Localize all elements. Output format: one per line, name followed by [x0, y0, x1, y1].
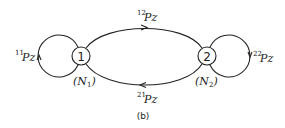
state-transition-diagram: 1 2 11 Pz 12 Pz 21 Pz 22 Pz (N1) (N2) (b…: [0, 0, 285, 128]
node-2: 2: [198, 47, 216, 65]
edge-label-11: 11 Pz: [15, 49, 35, 64]
node-1: 1: [72, 47, 90, 65]
svg-text:Pz: Pz: [143, 93, 157, 106]
svg-text:Pz: Pz: [143, 11, 157, 24]
svg-text:Pz: Pz: [21, 51, 35, 64]
node-1-label: 1: [77, 50, 85, 64]
node-2-name: (N2): [195, 75, 218, 89]
edge-label-21: 21 Pz: [137, 91, 157, 106]
edge-label-12: 12 Pz: [137, 9, 157, 24]
svg-text:Pz: Pz: [259, 52, 273, 65]
figure-caption: (b): [137, 111, 150, 121]
edge-label-22: 22 Pz: [253, 50, 273, 65]
arrow-right-icon: [141, 25, 147, 30]
edge-1-to-2: [86, 25, 202, 48]
edge-2-to-1: [86, 64, 202, 88]
node-1-name: (N1): [73, 75, 96, 89]
node-2-label: 2: [203, 50, 211, 64]
